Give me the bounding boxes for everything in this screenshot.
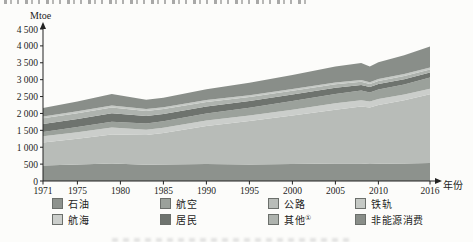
legend-item: 公路 [268,197,355,209]
x-tick-label: 2016 [421,186,440,196]
cropped-text-fragment-top [4,0,309,4]
legend-label: 公路 [284,196,305,211]
legend-item: 居民 [160,213,268,225]
x-axis-arrow-icon [435,178,442,184]
legend-label: 其他① [284,212,312,227]
y-tick-label: 500 [24,160,39,170]
legend-swatch-非能源消费 [355,214,366,225]
y-tick-label: 1 500 [17,126,39,136]
x-tick-label: 2000 [283,186,302,196]
y-tick-label: 0 [33,177,38,187]
y-tick-label: 4 000 [17,41,39,51]
x-axis-title: 年份 [443,179,463,191]
legend-swatch-铁轨 [355,198,366,209]
y-tick-label: 2 000 [17,109,39,119]
legend-item: 航空 [160,197,268,209]
x-tick-label: 1995 [240,186,259,196]
x-tick-label: 1975 [68,186,87,196]
legend-item: 其他① [268,213,355,225]
legend-label: 铁轨 [371,196,392,211]
legend-label: 航海 [68,212,89,227]
legend-label: 非能源消费 [371,212,424,227]
legend-swatch-公路 [268,198,279,209]
x-tick-label: 1980 [111,186,130,196]
legend-swatch-居民 [160,214,171,225]
x-tick-label: 2010 [369,186,388,196]
cropped-text-fragment-bottom [112,238,352,242]
y-tick-label: 2 500 [17,92,39,102]
y-axis-unit-label: Mtoe [30,10,52,21]
x-tick-label: 2005 [326,186,345,196]
legend-label: 居民 [176,212,197,227]
legend-swatch-航空 [160,198,171,209]
x-tick-label: 1990 [197,186,216,196]
legend-item: 铁轨 [355,197,424,209]
legend-swatch-石油 [52,198,63,209]
legend-item: 非能源消费 [355,213,424,225]
legend-swatch-其他 [268,214,279,225]
y-tick-label: 3 500 [17,58,39,68]
legend-item: 航海 [52,213,160,225]
legend-label: 航空 [176,196,197,211]
stacked-area-chart-figure: Mtoe 年份 05001 0001 5002 0002 5003 0003 5… [0,0,473,242]
y-axis-arrow-icon [40,22,46,29]
x-tick-label: 1971 [34,186,53,196]
legend: 石油航空公路铁轨航海居民其他①非能源消费 [52,197,424,225]
area-band-石油 [43,163,430,181]
legend-item: 石油 [52,197,160,209]
y-tick-label: 4 500 [17,25,39,35]
y-tick-label: 3 000 [17,75,39,85]
y-tick-label: 1 000 [17,143,39,153]
legend-label: 石油 [68,196,89,211]
x-tick-label: 1985 [154,186,173,196]
legend-swatch-航海 [52,214,63,225]
